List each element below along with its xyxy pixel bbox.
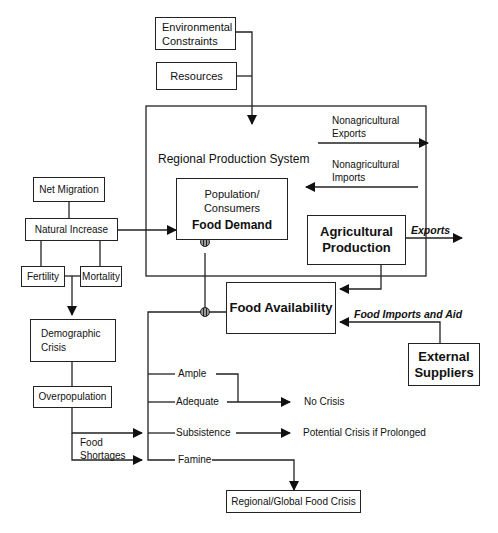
natural-increase-label: Natural Increase	[35, 223, 108, 237]
agprod-line1: Agricultural	[320, 224, 393, 240]
natural-increase-box: Natural Increase	[25, 218, 118, 241]
fertility-label: Fertility	[27, 270, 59, 284]
env-line2: Constraints	[162, 34, 218, 48]
no-crisis-label: No Crisis	[304, 395, 345, 408]
exports-label: Exports	[411, 224, 450, 237]
nonag-exports-label: Nonagricultural Exports	[332, 114, 399, 140]
food-availability-label: Food Availability	[229, 301, 332, 315]
fertility-box: Fertility	[21, 266, 65, 287]
agprod-line2: Production	[322, 240, 391, 256]
regional-global-crisis-box: Regional/Global Food Crisis	[226, 490, 361, 513]
shortages-line2: Shortages	[80, 449, 126, 462]
demographic-crisis-box: Demographic Crisis	[30, 319, 116, 362]
population-consumers-box: Population/ Consumers Food Demand	[176, 178, 288, 240]
food-availability-box: Food Availability	[226, 282, 336, 334]
demcrisis-line1: Demographic	[41, 327, 100, 341]
system-title: Regional Production System	[158, 153, 309, 166]
nonag-exports-line1: Nonagricultural	[332, 114, 399, 127]
food-demand-label: Food Demand	[192, 218, 272, 232]
mortality-label: Mortality	[82, 270, 120, 284]
shortages-line1: Food	[80, 436, 126, 449]
demcrisis-line2: Crisis	[41, 341, 66, 355]
mortality-box: Mortality	[80, 266, 122, 287]
connector-lines	[0, 0, 498, 533]
nonag-imports-line1: Nonagricultural	[332, 158, 399, 171]
level-subsistence: Subsistence	[176, 426, 230, 439]
level-adequate: Adequate	[176, 395, 219, 408]
population-line1: Population/	[204, 187, 259, 201]
ext-line2: Suppliers	[414, 365, 473, 381]
resources-label: Resources	[170, 69, 223, 83]
population-line2: Consumers	[204, 201, 260, 215]
nonag-exports-line2: Exports	[332, 127, 399, 140]
net-migration-label: Net Migration	[39, 183, 98, 197]
resources-box: Resources	[156, 62, 237, 90]
nonag-imports-label: Nonagricultural Imports	[332, 158, 399, 184]
regional-global-label: Regional/Global Food Crisis	[231, 495, 356, 509]
food-imports-aid-label: Food Imports and Aid	[354, 308, 462, 321]
external-suppliers-box: External Suppliers	[408, 343, 480, 386]
agricultural-production-box: Agricultural Production	[307, 215, 406, 265]
potential-crisis-label: Potential Crisis if Prolonged	[303, 426, 426, 439]
nonag-imports-line2: Imports	[332, 171, 399, 184]
food-shortages-label: Food Shortages	[80, 436, 126, 462]
overpopulation-box: Overpopulation	[33, 386, 112, 408]
ext-line1: External	[418, 349, 469, 365]
overpopulation-label: Overpopulation	[39, 390, 107, 404]
level-ample: Ample	[178, 367, 206, 380]
level-famine: Famine	[178, 453, 211, 466]
env-line1: Environmental	[162, 20, 232, 34]
net-migration-box: Net Migration	[33, 177, 105, 202]
environmental-constraints-box: Environmental Constraints	[155, 17, 236, 50]
